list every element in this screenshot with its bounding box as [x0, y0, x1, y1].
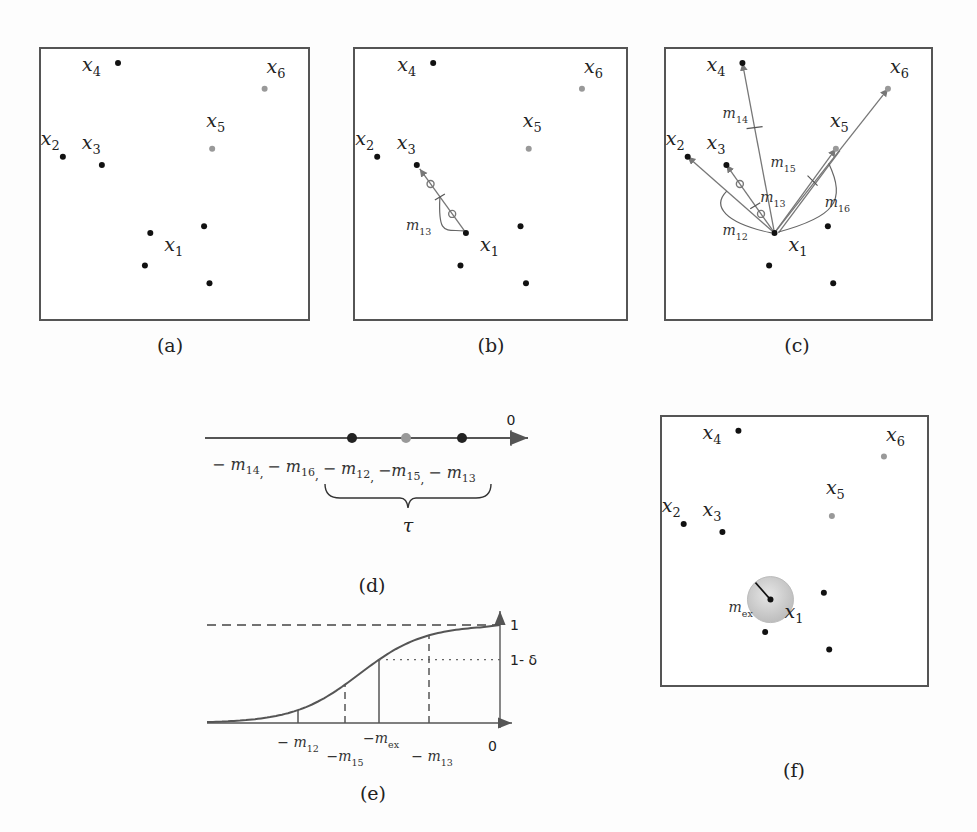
point-p9-panel-c	[830, 280, 836, 286]
point-x5-panel-f	[829, 513, 835, 519]
panel-e-cdf-plot: − m12−m15−mex− m1311- δ0	[207, 611, 537, 768]
point-x1-panel-a	[147, 230, 153, 236]
caption-e: (e)	[360, 782, 386, 804]
caption-d: (d)	[359, 574, 386, 596]
point-p9-panel-b	[523, 280, 529, 286]
label-m-ex-panel-e: −mex	[363, 730, 400, 750]
point-x6-panel-f	[881, 454, 887, 460]
margin-order-label: − m14, − m16, − m12, −m15, − m13	[212, 455, 476, 486]
caption-c: (c)	[784, 334, 809, 356]
number-line-point-m12	[347, 433, 357, 443]
point-p9-panel-a	[206, 280, 212, 286]
caption-f: (f)	[783, 759, 805, 781]
point-x6-panel-b	[579, 86, 585, 92]
point-x5-panel-c	[833, 146, 839, 152]
point-p7-panel-a	[201, 223, 207, 229]
x-label-zero: 0	[488, 738, 497, 754]
point-p7-panel-c	[825, 223, 831, 229]
point-x4-panel-f	[735, 428, 741, 434]
point-x5-panel-b	[526, 146, 532, 152]
tau-label: τ	[403, 514, 414, 536]
point-x4-panel-b	[430, 60, 436, 66]
panel-a-frame	[40, 48, 309, 320]
y-label-threshold: 1- δ	[510, 652, 537, 668]
point-x5-panel-a	[209, 146, 215, 152]
point-x3-panel-b	[414, 162, 420, 168]
point-x2-panel-c	[685, 154, 691, 160]
point-p7-panel-f	[821, 590, 827, 596]
label-m15-panel-e: −m15	[326, 748, 363, 768]
number-line-point-m15	[401, 433, 411, 443]
point-x4-panel-a	[115, 60, 121, 66]
point-x1-panel-b	[463, 230, 469, 236]
label-m12-panel-e: − m12	[277, 734, 319, 754]
cdf-curve	[207, 625, 500, 722]
y-label-one: 1	[510, 617, 519, 633]
brace	[325, 484, 491, 508]
label-m13-panel-e: − m13	[411, 748, 453, 768]
caption-a: (a)	[157, 334, 183, 356]
panel-d-number-line: 0− m14, − m16, − m12, −m15, − m13τ	[205, 412, 528, 536]
point-x6-panel-c	[885, 86, 891, 92]
panel-c-frame	[665, 48, 932, 320]
point-p8-panel-a	[142, 263, 148, 269]
point-x3-panel-c	[723, 162, 729, 168]
figure-canvas: m14m13m12m15m16 m13 mex x1x2x3x4x5x6x1x2…	[0, 0, 977, 832]
point-p8-panel-b	[457, 263, 463, 269]
point-p8-panel-f	[762, 629, 768, 635]
point-p9-panel-f	[826, 647, 832, 653]
point-x2-panel-f	[681, 521, 687, 527]
point-x3-panel-a	[99, 162, 105, 168]
caption-b: (b)	[478, 334, 505, 356]
point-x2-panel-b	[374, 154, 380, 160]
panel-f-frame	[661, 416, 928, 686]
panel-b-frame	[354, 48, 627, 320]
point-x1-panel-f	[767, 597, 773, 603]
point-x6-panel-a	[262, 86, 268, 92]
zero-label: 0	[507, 412, 516, 428]
point-x3-panel-f	[719, 529, 725, 535]
number-line-point-m13	[457, 433, 467, 443]
point-x2-panel-a	[60, 154, 66, 160]
point-p8-panel-c	[766, 263, 772, 269]
point-x4-panel-c	[739, 60, 745, 66]
point-p7-panel-b	[518, 223, 524, 229]
point-x1-panel-c	[771, 230, 777, 236]
